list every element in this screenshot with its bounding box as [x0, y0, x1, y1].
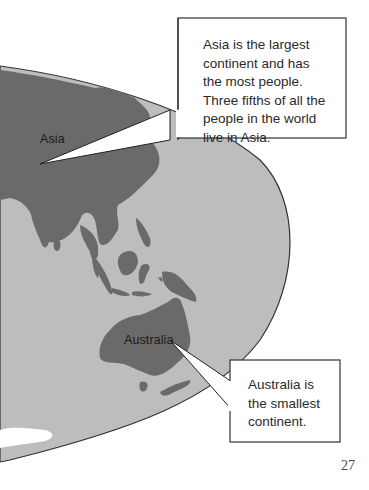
asia-callout-line: Asia is the largest	[203, 36, 325, 55]
asia-pointer-mask	[176, 109, 181, 137]
page-number: 27	[341, 458, 355, 474]
australia-pointer-mask	[228, 381, 233, 411]
asia-callout-text: Asia is the largest continent and has th…	[203, 36, 325, 147]
asia-callout-line: the most people.	[203, 73, 325, 92]
australia-callout-line: Australia is	[248, 376, 320, 395]
sri-lanka	[54, 239, 61, 251]
australia-label: Australia	[124, 333, 174, 347]
australia-callout-line: continent.	[248, 413, 320, 432]
australia-callout-text: Australia is the smallest continent.	[248, 376, 320, 432]
australia-callout-line: the smallest	[248, 395, 320, 414]
asia-callout-line: live in Asia.	[203, 129, 325, 148]
asia-callout-line: people in the world	[203, 110, 325, 129]
asia-callout-line: Three fifths of all the	[203, 92, 325, 111]
asia-callout-line: continent and has	[203, 55, 325, 74]
asia-label: Asia	[40, 132, 65, 146]
